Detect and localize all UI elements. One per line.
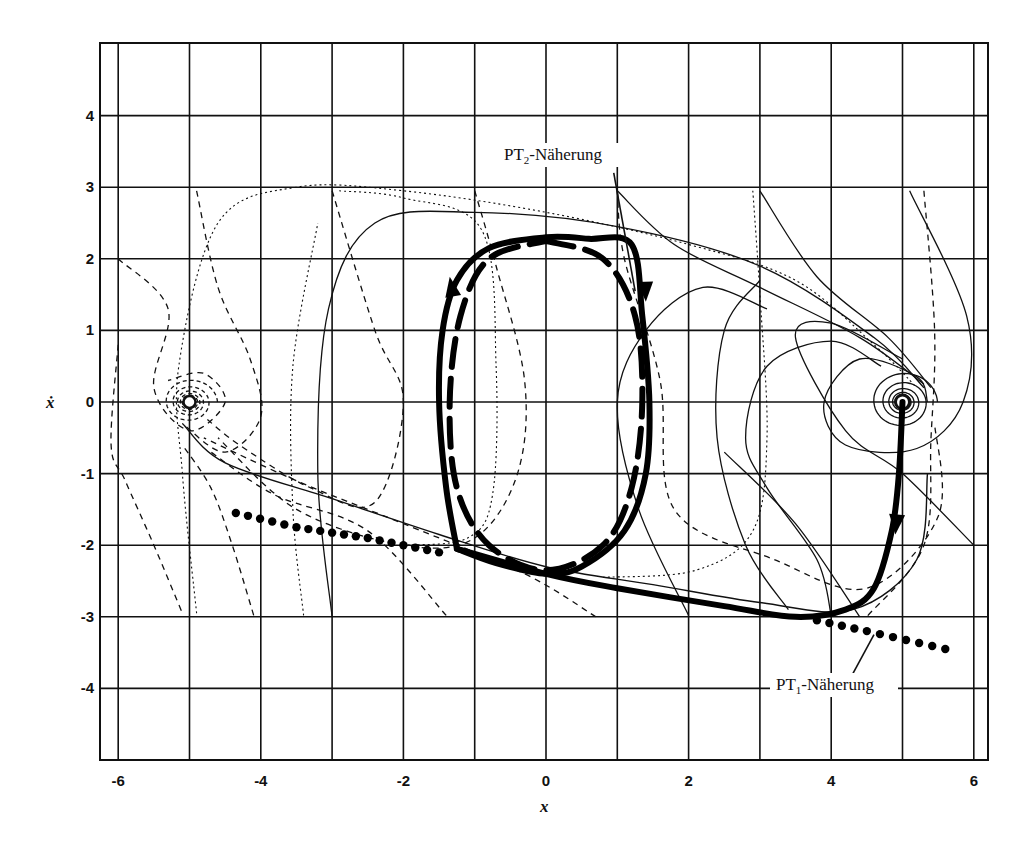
y-axis-label: ẋ (45, 393, 55, 412)
pt2-annotation: PT2-Näherung (504, 145, 603, 166)
phase-curve (182, 424, 927, 613)
y-tick-label: -4 (81, 679, 95, 696)
x-tick-label: -4 (254, 772, 268, 789)
x-tick-label: 0 (542, 772, 550, 789)
svg-text:PT2-Näherung: PT2-Näherung (504, 145, 603, 166)
phase-portrait-chart: -6-4-2024643210-1-2-3-4 x ẋ PT2-Näherung… (0, 0, 1034, 865)
pt1-label-rest: -Näherung (801, 675, 874, 694)
PT1-approximation-upper (232, 509, 444, 557)
y-tick-label: 4 (86, 107, 95, 124)
x-axis-label: x (539, 797, 549, 816)
phase-curve (204, 438, 596, 617)
svg-text:PT1-Näherung: PT1-Näherung (776, 675, 875, 696)
pt2-label-rest: -Näherung (529, 145, 602, 164)
pt1-label-main: PT (776, 675, 796, 694)
left-focus-point (184, 396, 196, 408)
PT1-approximation-lower (813, 616, 950, 653)
y-tick-label: -1 (81, 465, 94, 482)
approach-trajectory (457, 402, 903, 617)
y-tick-label: 0 (86, 393, 94, 410)
phase-curve (617, 191, 924, 384)
highlighted-trajectories (232, 173, 950, 674)
phase-curve (795, 321, 973, 545)
pt1-leader-line (853, 635, 874, 674)
pt2-label-main: PT (504, 145, 524, 164)
phase-curve (724, 452, 859, 617)
y-tick-label: -3 (81, 608, 94, 625)
x-tick-label: 2 (684, 772, 692, 789)
phase-curve (291, 223, 318, 615)
phase-trajectories (111, 185, 974, 617)
phase-curve (204, 191, 404, 508)
y-tick-label: -2 (81, 536, 94, 553)
x-tick-label: -6 (112, 772, 125, 789)
x-tick-label: 4 (827, 772, 836, 789)
phase-curve (760, 191, 931, 388)
x-tick-label: -2 (397, 772, 410, 789)
phase-curve (218, 191, 526, 548)
phase-curve (182, 191, 262, 452)
phase-curve (339, 191, 497, 545)
pt1-annotation: PT1-Näherung (776, 675, 875, 696)
y-tick-label: 1 (86, 321, 94, 338)
y-tick-label: 2 (86, 250, 94, 267)
x-tick-label: 6 (970, 772, 978, 789)
phase-curve (111, 345, 182, 614)
y-tick-label: 3 (86, 178, 94, 195)
